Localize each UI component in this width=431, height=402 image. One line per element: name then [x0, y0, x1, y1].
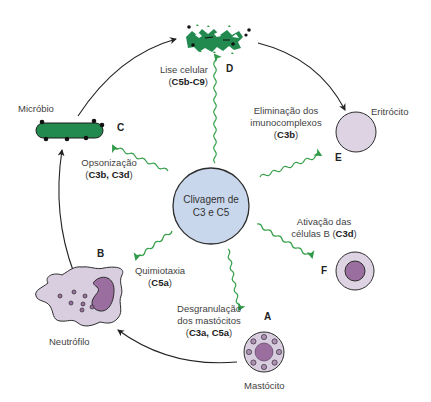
paren-close: )	[229, 327, 232, 338]
mastocyte-label: Mastócito	[244, 380, 285, 392]
lysis-mediators: C5b-C9	[172, 76, 205, 87]
immune-complex-function-1: Eliminação dos	[250, 105, 322, 117]
mastocyte-icon	[244, 332, 284, 372]
signal-arrow-degranulation	[228, 249, 240, 310]
opsonization-label: Opsonização (C3b, C3d)	[80, 157, 138, 181]
hub-label: Clivagem de C3 e C5	[173, 193, 249, 219]
immune-complex-label: Eliminação dos imunocomplexos (C3b)	[250, 105, 322, 141]
immune-complex-function-2: imunocomplexos	[250, 117, 322, 129]
opsonization-function: Opsonização	[80, 157, 138, 169]
hub-label-line1: Clivagem de	[173, 193, 249, 206]
erythrocyte-label: Eritrócito	[371, 106, 408, 118]
letter-c: C	[117, 122, 124, 133]
letter-f: F	[321, 265, 327, 276]
letter-a: A	[264, 311, 271, 322]
chemotaxis-function: Quimiotaxia	[132, 265, 188, 277]
arrow-neutrophil-to-microbe	[59, 150, 74, 273]
microbe-label: Micróbio	[18, 103, 54, 115]
chemotaxis-mediators: C5a	[151, 277, 168, 288]
paren-close: )	[169, 277, 172, 288]
b-cell-activation-label: Ativação das células B (C3d)	[288, 216, 360, 240]
letter-d: D	[226, 63, 233, 74]
degranulation-function-1: Desgranulação	[172, 303, 246, 315]
chemotaxis-label: Quimiotaxia (C5a)	[132, 265, 188, 289]
signal-arrow-lysis	[214, 55, 217, 163]
lysis-function: Lise celular	[152, 64, 208, 76]
paren-close: )	[205, 76, 208, 87]
b-cell-mediators-line: células B (C3d)	[288, 228, 360, 240]
hub-label-line2: C3 e C5	[173, 206, 249, 219]
microbe-icon	[36, 119, 104, 142]
chemotaxis-mediators-line: (C5a)	[132, 277, 188, 289]
lysed-microbe-icon	[186, 24, 251, 54]
signal-arrow-chemotaxis	[136, 231, 172, 259]
opsonization-mediators: C3b, C3d	[88, 169, 129, 180]
b-cell-icon	[336, 252, 374, 290]
degranulation-mediators-line: (C3a, C5a)	[172, 327, 246, 339]
neutrophil-icon	[36, 267, 123, 326]
opsonization-mediators-line: (C3b, C3d)	[80, 169, 138, 181]
degranulation-mediators: C3a, C5a	[189, 327, 229, 338]
paren-close: )	[354, 228, 357, 239]
neutrophil-label: Neutrófilo	[49, 336, 90, 348]
immune-complex-mediators-line: (C3b)	[250, 129, 322, 141]
b-cell-function-1: Ativação das	[288, 216, 360, 228]
paren-close: )	[130, 169, 133, 180]
letter-e: E	[335, 152, 342, 163]
lysis-mediators-line: (C5b-C9)	[152, 76, 208, 88]
degranulation-label: Desgranulação dos mastócitos (C3a, C5a)	[172, 303, 246, 339]
erythrocyte-icon	[336, 112, 376, 152]
paren-close: )	[295, 129, 298, 140]
arrow-lysis-to-erythrocyte	[258, 43, 345, 110]
immune-complex-mediators: C3b	[277, 129, 295, 140]
b-cell-mediators: C3d	[336, 228, 354, 239]
signal-arrow-immune-complex	[260, 154, 321, 177]
letter-b: B	[97, 248, 104, 259]
b-cell-function-2: células B (	[291, 228, 335, 239]
lysis-label: Lise celular (C5b-C9)	[152, 64, 208, 88]
degranulation-function-2: dos mastócitos	[172, 315, 246, 327]
